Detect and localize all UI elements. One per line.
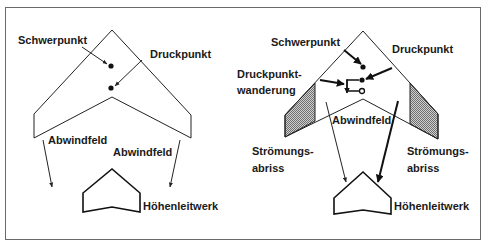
left-downwash-label-2: Abwindfeld: [113, 146, 172, 159]
stall-right-label-line1: Strömungs-: [407, 145, 469, 158]
stall-right-label-line2: abriss: [407, 162, 439, 175]
right-cp-arrow: [366, 68, 392, 79]
right-cg-label: Schwerpunkt: [271, 36, 340, 49]
cp-shift-label-line2: wanderung: [237, 84, 296, 97]
left-downwash-label-1: Abwindfeld: [48, 134, 107, 147]
cp-shift-bracket: [347, 80, 359, 91]
left-cp-label: Druckpunkt: [150, 48, 211, 61]
left-tailplane: [83, 169, 140, 212]
right-downwash-label: Abwindfeld: [332, 114, 391, 127]
right-cg-arrow: [344, 50, 361, 64]
left-cp-dot: [108, 85, 113, 90]
cp-shift-label-arrow: [320, 80, 344, 84]
right-cp-label: Druckpunkt: [392, 43, 453, 56]
cp-shift-label-line1: Druckpunkt-: [237, 68, 302, 81]
right-cg-dot: [360, 64, 365, 69]
right-stall-region: [410, 83, 438, 139]
right-cp-dot: [359, 77, 364, 82]
left-tailplane-label: Höhenleitwerk: [143, 200, 218, 213]
left-cg-dot: [108, 63, 113, 68]
right-tailplane-label: Höhenleitwerk: [394, 200, 469, 213]
stall-left-label-line1: Strömungs-: [252, 145, 314, 158]
right-tailplane: [334, 172, 391, 214]
left-cp-arrow: [115, 60, 142, 86]
stall-left-label-line2: abriss: [252, 162, 284, 175]
right-shifted-cp-circle: [360, 89, 365, 94]
left-cg-label: Schwerpunkt: [18, 34, 87, 47]
left-downwash-arrow-left: [43, 140, 52, 187]
